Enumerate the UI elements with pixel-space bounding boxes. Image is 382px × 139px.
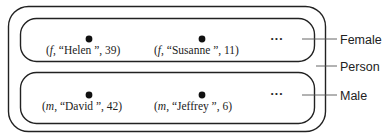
element-point [86, 36, 93, 43]
male-label: Male [340, 89, 367, 103]
element-point [86, 92, 93, 99]
more-elements-ellipsis: ··· [270, 86, 283, 101]
element-point [199, 92, 206, 99]
element-tuple: (f, “Helen ”, 39) [46, 44, 121, 57]
person-set-boundary [9, 7, 326, 132]
person-label: Person [340, 60, 380, 74]
element-tuple: (m, “Jeffrey ”, 6) [154, 100, 232, 113]
female-label: Female [340, 33, 382, 47]
more-elements-ellipsis: ··· [270, 31, 283, 46]
set-diagram: (f, “Helen ”, 39) (f, “Susanne ”, 11) ··… [0, 0, 382, 139]
element-point [199, 36, 206, 43]
element-tuple: (m, “David ”, 42) [42, 100, 122, 113]
element-tuple: (f, “Susanne ”, 11) [154, 44, 239, 57]
